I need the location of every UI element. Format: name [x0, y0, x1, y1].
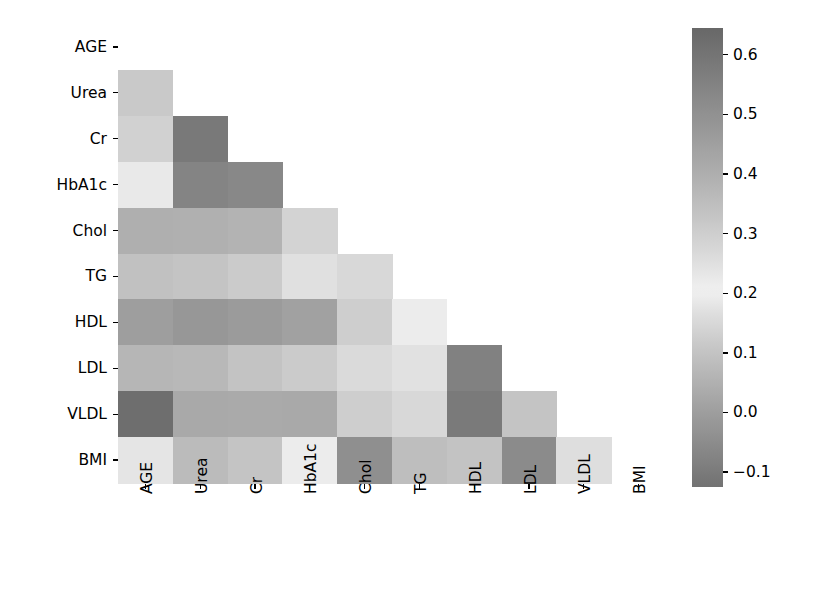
y-axis-label-hdl: HDL — [75, 313, 107, 331]
heatmap-cell — [118, 299, 173, 346]
y-axis-tick — [113, 46, 118, 47]
heatmap-cell — [502, 391, 557, 438]
heatmap-cell — [173, 391, 228, 438]
heatmap-cell — [447, 391, 502, 438]
colorbar-tick — [723, 173, 728, 174]
x-axis-label-vldl: VLDL — [576, 454, 594, 494]
heatmap-cell — [118, 208, 173, 255]
y-axis-tick — [113, 322, 118, 323]
colorbar-tick — [723, 293, 728, 294]
colorbar-tick-label: 0.1 — [733, 344, 758, 362]
y-axis-tick — [113, 138, 118, 139]
colorbar-tick-label: 0.0 — [733, 403, 758, 421]
heatmap-cell — [228, 391, 283, 438]
heatmap-cell — [282, 254, 337, 301]
heatmap-cell — [282, 208, 337, 255]
colorbar-tick-label: 0.2 — [733, 284, 758, 302]
heatmap-cell — [282, 345, 337, 392]
y-axis-label-ldl: LDL — [78, 359, 107, 377]
heatmap-cell — [228, 345, 283, 392]
heatmap-cell — [228, 208, 283, 255]
y-axis-tick — [113, 276, 118, 277]
x-axis-label-hba1c: HbA1c — [302, 444, 320, 494]
colorbar-tick-label: 0.6 — [733, 46, 758, 64]
heatmap-cell — [282, 391, 337, 438]
colorbar — [692, 28, 723, 487]
heatmap-cell — [228, 254, 283, 301]
y-axis-tick — [113, 92, 118, 93]
heatmap-cell — [228, 162, 283, 209]
figure-canvas: AGEUreaCrHbA1cCholTGHDLLDLVLDLBMI AGEUre… — [0, 0, 816, 602]
colorbar-tick-label: 0.3 — [733, 225, 758, 243]
y-axis-label-tg: TG — [86, 267, 107, 285]
heatmap-cell — [118, 345, 173, 392]
y-axis-label-hba1c: HbA1c — [57, 176, 107, 194]
colorbar-tick — [723, 412, 728, 413]
colorbar-tick-label: 0.5 — [733, 105, 758, 123]
y-axis-tick — [113, 414, 118, 415]
heatmap-cell — [173, 345, 228, 392]
heatmap-cell — [118, 116, 173, 163]
heatmap-cell — [392, 299, 447, 346]
x-axis-label-urea: Urea — [193, 458, 211, 494]
y-axis-label-bmi: BMI — [78, 451, 107, 469]
y-axis-tick — [113, 184, 118, 185]
y-axis-label-chol: Chol — [73, 222, 107, 240]
heatmap-cell — [337, 299, 392, 346]
x-axis-label-hdl: HDL — [467, 462, 485, 494]
heatmap-cell — [173, 254, 228, 301]
x-axis-label-tg: TG — [412, 473, 430, 494]
x-axis-label-bmi: BMI — [631, 465, 649, 494]
colorbar-tick — [723, 233, 728, 234]
heatmap-cell — [337, 391, 392, 438]
colorbar-tick — [723, 471, 728, 472]
heatmap-cell — [392, 345, 447, 392]
y-axis-tick — [113, 459, 118, 460]
heatmap-cell — [228, 299, 283, 346]
colorbar-tick-label: 0.4 — [733, 165, 758, 183]
colorbar-tick — [723, 114, 728, 115]
x-axis-label-age: AGE — [138, 462, 156, 494]
y-axis-label-vldl: VLDL — [67, 405, 107, 423]
heatmap-cell — [337, 254, 392, 301]
y-axis-label-urea: Urea — [71, 84, 107, 102]
heatmap-cell — [282, 299, 337, 346]
heatmap-cell — [173, 208, 228, 255]
y-axis-tick — [113, 230, 118, 231]
heatmap-cell — [173, 299, 228, 346]
heatmap-cell — [118, 254, 173, 301]
heatmap-cell — [447, 345, 502, 392]
y-axis-tick — [113, 368, 118, 369]
heatmap-cell — [173, 162, 228, 209]
colorbar-tick — [723, 352, 728, 353]
x-axis-label-cr: Cr — [248, 477, 266, 494]
x-axis-label-ldl: LDL — [522, 465, 540, 494]
heatmap-cell — [118, 391, 173, 438]
heatmap-cell — [118, 162, 173, 209]
y-axis-label-age: AGE — [75, 38, 107, 56]
y-axis-label-cr: Cr — [90, 130, 107, 148]
heatmap-cell — [173, 116, 228, 163]
colorbar-tick — [723, 54, 728, 55]
colorbar-gradient — [692, 28, 723, 487]
heatmap-cell — [118, 70, 173, 117]
heatmap-cell — [392, 391, 447, 438]
x-axis-label-chol: Chol — [357, 460, 375, 494]
colorbar-tick-label: −0.1 — [733, 463, 771, 481]
heatmap-plot-area — [118, 24, 611, 483]
heatmap-cell — [337, 345, 392, 392]
